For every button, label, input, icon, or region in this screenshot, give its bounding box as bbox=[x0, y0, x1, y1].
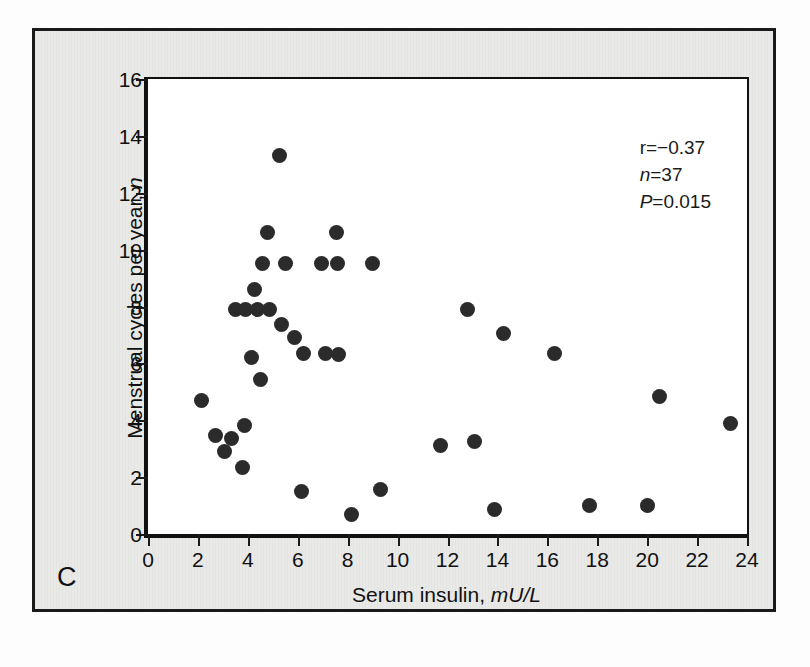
x-axis-title: Serum insulin, mU/L bbox=[144, 583, 749, 607]
data-point bbox=[253, 372, 268, 387]
x-axis-tick-label: 24 bbox=[735, 549, 758, 570]
data-point bbox=[296, 346, 311, 361]
data-point bbox=[235, 460, 250, 475]
figure-root: Menstrual cycles per year, n r=−0.37 n=3… bbox=[0, 0, 810, 667]
y-axis-tick-label: 2 bbox=[130, 467, 142, 488]
data-point bbox=[272, 148, 287, 163]
data-point bbox=[365, 256, 380, 271]
data-point bbox=[224, 431, 239, 446]
x-axis-tick-label: 4 bbox=[242, 549, 254, 570]
x-axis-tick-label: 0 bbox=[142, 549, 154, 570]
data-point bbox=[247, 282, 262, 297]
data-point bbox=[237, 418, 252, 433]
data-point bbox=[487, 502, 502, 517]
x-axis-tick bbox=[697, 534, 699, 546]
data-point bbox=[373, 482, 388, 497]
y-axis-tick-label: 10 bbox=[119, 239, 142, 260]
data-point bbox=[640, 498, 655, 513]
p-label: P bbox=[640, 191, 653, 212]
x-axis-tick bbox=[597, 534, 599, 546]
data-point bbox=[208, 428, 223, 443]
data-point bbox=[723, 416, 738, 431]
x-axis-tick bbox=[647, 534, 649, 546]
data-point bbox=[194, 393, 209, 408]
x-axis-tick bbox=[348, 534, 350, 546]
p-value: =0.015 bbox=[652, 191, 711, 212]
data-point bbox=[582, 498, 597, 513]
data-point bbox=[547, 346, 562, 361]
x-axis-tick-label: 10 bbox=[386, 549, 409, 570]
r-label: r= bbox=[640, 137, 657, 158]
n-label: n bbox=[640, 164, 651, 185]
data-point bbox=[314, 256, 329, 271]
data-point bbox=[329, 225, 344, 240]
y-axis-tick-label: 12 bbox=[119, 182, 142, 203]
x-axis-tick-label: 22 bbox=[685, 549, 708, 570]
data-point bbox=[217, 444, 232, 459]
y-axis-tick-label: 4 bbox=[130, 410, 142, 431]
x-axis-tick bbox=[148, 534, 150, 546]
x-axis-tick-label: 12 bbox=[436, 549, 459, 570]
x-axis-tick-label: 16 bbox=[536, 549, 559, 570]
y-axis-tick-label: 8 bbox=[130, 296, 142, 317]
x-axis-tick bbox=[398, 534, 400, 546]
data-point bbox=[652, 389, 667, 404]
x-axis-tick bbox=[497, 534, 499, 546]
x-axis-tick-label: 18 bbox=[586, 549, 609, 570]
x-axis-tick-label: 20 bbox=[635, 549, 658, 570]
x-axis-tick bbox=[448, 534, 450, 546]
x-axis-tick-label: 6 bbox=[292, 549, 304, 570]
sample-size-statistic: n=37 bbox=[640, 162, 711, 189]
plot-area: r=−0.37 n=37 P=0.015 0246810121416024681… bbox=[144, 77, 749, 538]
y-axis-tick-label: 14 bbox=[119, 125, 142, 146]
p-value-statistic: P=0.015 bbox=[640, 189, 711, 216]
data-point bbox=[244, 350, 259, 365]
data-point bbox=[274, 317, 289, 332]
x-axis-tick bbox=[198, 534, 200, 546]
data-point bbox=[330, 256, 345, 271]
y-axis-tick-label: 16 bbox=[119, 69, 142, 90]
data-point bbox=[262, 302, 277, 317]
data-point bbox=[278, 256, 293, 271]
x-axis-tick-label: 8 bbox=[342, 549, 354, 570]
x-axis-tick bbox=[248, 534, 250, 546]
x-axis-tick bbox=[298, 534, 300, 546]
data-point bbox=[344, 507, 359, 522]
data-point bbox=[467, 434, 482, 449]
data-point bbox=[255, 256, 270, 271]
x-axis-tick-label: 2 bbox=[192, 549, 204, 570]
panel-letter: C bbox=[57, 562, 77, 593]
y-axis-tick-label: 0 bbox=[130, 524, 142, 545]
y-axis-tick-label: 6 bbox=[130, 353, 142, 374]
statistics-annotation: r=−0.37 n=37 P=0.015 bbox=[640, 135, 711, 216]
n-value: =37 bbox=[650, 164, 682, 185]
data-point bbox=[496, 326, 511, 341]
data-point bbox=[460, 302, 475, 317]
data-point bbox=[294, 484, 309, 499]
data-point bbox=[260, 225, 275, 240]
r-value: −0.37 bbox=[657, 137, 705, 158]
data-point bbox=[433, 438, 448, 453]
x-axis-tick bbox=[547, 534, 549, 546]
x-axis-title-text: Serum insulin, bbox=[352, 583, 491, 606]
x-axis-tick bbox=[747, 534, 749, 546]
x-axis-title-units: mU/L bbox=[491, 583, 541, 606]
correlation-statistic: r=−0.37 bbox=[640, 135, 711, 162]
data-point bbox=[287, 330, 302, 345]
x-axis-tick-label: 14 bbox=[486, 549, 509, 570]
data-point bbox=[331, 347, 346, 362]
figure-frame: Menstrual cycles per year, n r=−0.37 n=3… bbox=[32, 28, 776, 612]
